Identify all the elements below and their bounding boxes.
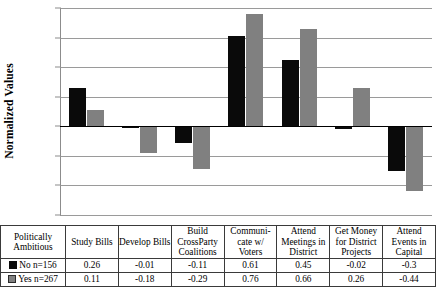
table-row: Yes n=2670.11-0.18-0.290.760.660.26-0.44 <box>1 273 436 287</box>
zero-axis-line <box>60 126 432 127</box>
table-column-header: Get Money for District Projects <box>330 226 383 259</box>
bar <box>388 126 405 170</box>
bar <box>228 36 245 126</box>
bar <box>193 126 210 169</box>
gridline <box>60 215 432 216</box>
bar-group <box>273 8 326 215</box>
y-axis-tick-mark <box>55 215 61 216</box>
table-corner-header: Politically Ambitious <box>1 226 66 259</box>
bar-group <box>379 8 432 215</box>
bar <box>246 14 263 126</box>
bar <box>353 88 370 126</box>
chart-plot-area <box>60 8 432 215</box>
table-cell: -0.3 <box>383 259 436 273</box>
bar <box>87 110 104 126</box>
y-axis-tick-mark <box>55 8 61 9</box>
table-cell: 0.61 <box>224 259 277 273</box>
table-cell: 0.26 <box>330 273 383 287</box>
table-column-header: Communi- cate w/ Voters <box>224 226 277 259</box>
legend-swatch-icon <box>8 275 16 283</box>
table-cell: 0.45 <box>277 259 330 273</box>
table-column-header: Build CrossParty Coalitions <box>171 226 224 259</box>
table-cell: -0.18 <box>118 273 171 287</box>
chart-data-table: Politically Ambitious Study BillsDevelop… <box>0 225 436 287</box>
chart-plot-wrapper: 0.80.60.40.20-0.2-0.4-0.6 <box>0 0 437 224</box>
table-cell: -0.29 <box>171 273 224 287</box>
y-axis-tick-mark <box>55 185 61 186</box>
bar <box>300 29 317 127</box>
table-column-header: Attend Events in Capital <box>383 226 436 259</box>
bar-group <box>326 8 379 215</box>
table-row-label: No n=156 <box>1 259 66 273</box>
bar <box>282 60 299 127</box>
y-axis-tick-mark <box>55 155 61 156</box>
legend-swatch-icon <box>9 261 17 269</box>
table-body: No n=1560.26-0.01-0.110.610.45-0.02-0.3Y… <box>1 259 436 287</box>
table-cell: -0.02 <box>330 259 383 273</box>
bar-group <box>166 8 219 215</box>
y-axis-tick-mark <box>55 96 61 97</box>
bar <box>175 126 192 142</box>
y-axis-tick-mark <box>55 37 61 38</box>
table-cell: 0.66 <box>277 273 330 287</box>
table-column-header: Study Bills <box>66 226 119 259</box>
bar <box>406 126 423 191</box>
table-cell: -0.01 <box>118 259 171 273</box>
bar <box>69 88 86 126</box>
bar-group <box>219 8 272 215</box>
bar-group <box>113 8 166 215</box>
bar <box>140 126 157 153</box>
table-column-header: Attend Meetings in District <box>277 226 330 259</box>
table-header-row: Politically Ambitious Study BillsDevelop… <box>1 226 436 259</box>
bar-group <box>60 8 113 215</box>
table-cell: 0.26 <box>66 259 119 273</box>
table-cell: -0.11 <box>171 259 224 273</box>
table-row: No n=1560.26-0.01-0.110.610.45-0.02-0.3 <box>1 259 436 273</box>
y-axis-tick-mark <box>55 67 61 68</box>
table-cell: -0.44 <box>383 273 436 287</box>
table-cell: 0.76 <box>224 273 277 287</box>
table-cell: 0.11 <box>66 273 119 287</box>
table-column-header: Develop Bills <box>118 226 171 259</box>
table-row-label: Yes n=267 <box>1 273 66 287</box>
